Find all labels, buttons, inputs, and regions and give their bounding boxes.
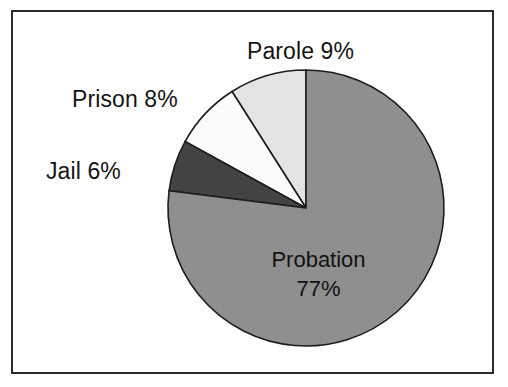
pie-slice-group bbox=[168, 70, 444, 346]
slice-label-probation: Probation 77% bbox=[246, 245, 391, 303]
slice-label-probation-percent: 77% bbox=[246, 274, 391, 303]
slice-label-prison: Prison 8% bbox=[72, 86, 178, 112]
slice-label-probation-name: Probation bbox=[271, 247, 365, 272]
slice-label-jail: Jail 6% bbox=[46, 158, 121, 184]
slice-label-parole: Parole 9% bbox=[247, 38, 354, 64]
chart-canvas: Parole 9% Prison 8% Jail 6% Probation 77… bbox=[0, 0, 508, 387]
